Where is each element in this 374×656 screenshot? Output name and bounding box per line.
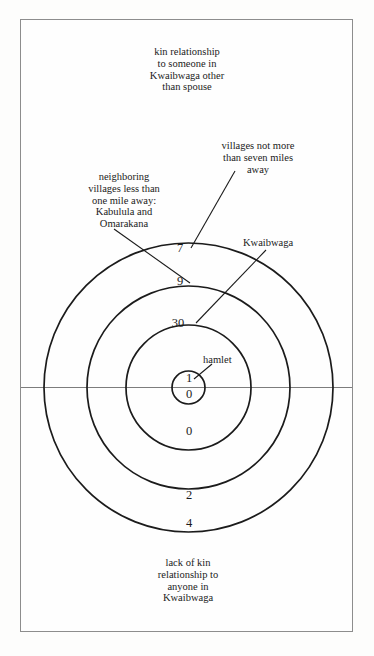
leader-line-seven-miles: [191, 171, 235, 248]
value-ring-seven-miles-lower: 4: [177, 516, 201, 530]
value-ring-neighboring-upper: 9: [168, 274, 192, 288]
annotation-lack-of-kin: lack of kin relationship to anyone in Kw…: [113, 557, 263, 604]
annotation-hamlet: hamlet: [203, 354, 263, 366]
figure-page: kin relationship to someone in Kwaibwaga…: [0, 0, 374, 656]
value-ring-kwaibwaga-upper: 30: [163, 316, 193, 330]
value-ring-hamlet-lower: 0: [177, 387, 201, 401]
value-ring-hamlet-upper: 1: [177, 371, 201, 385]
annotation-kin-relationship: kin relationship to someone in Kwaibwaga…: [107, 46, 267, 93]
value-ring-seven-miles-upper: 7: [168, 241, 192, 255]
annotation-seven-miles: villages not more than seven miles away: [202, 140, 314, 175]
value-ring-neighboring-lower: 2: [177, 488, 201, 502]
value-ring-kwaibwaga-lower: 0: [177, 424, 201, 438]
annotation-kwaibwaga: Kwaibwaga: [243, 237, 343, 249]
annotation-neighboring-villages: neighboring villages less than one mile …: [54, 171, 194, 230]
